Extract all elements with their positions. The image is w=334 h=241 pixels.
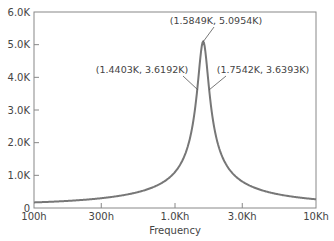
y-tick-label: 2.0K — [8, 137, 31, 148]
y-tick-label: 1.0K — [8, 170, 31, 181]
y-tick-label: 3.0K — [8, 105, 31, 116]
y-tick-label: 6.0K — [8, 7, 31, 18]
annotation-label: (1.5849K, 5.0954K) — [170, 15, 262, 26]
x-tick-label: 10Kh — [303, 211, 329, 222]
x-tick-label: 300h — [89, 211, 114, 222]
y-tick-label: 5.0K — [8, 39, 31, 50]
x-axis-label: Frequency — [149, 225, 201, 236]
x-tick-label: 1.0Kh — [161, 211, 190, 222]
annotation-arrow — [183, 76, 198, 90]
annotations: (1.5849K, 5.0954K)(1.4403K, 3.6192K)(1.7… — [96, 15, 309, 90]
x-tick-label: 3.0Kh — [228, 211, 257, 222]
frequency-response-chart: 01.0K2.0K3.0K4.0K5.0K6.0K 100h300h1.0Kh3… — [0, 0, 334, 241]
annotation-arrow — [203, 27, 214, 42]
y-tick-label: 4.0K — [8, 72, 31, 83]
annotation-arrow — [209, 76, 226, 90]
x-tick-label: 100h — [21, 211, 46, 222]
annotation-label: (1.4403K, 3.6192K) — [96, 64, 188, 75]
x-axis: 100h300h1.0Kh3.0Kh10Kh — [21, 203, 329, 222]
plot-frame — [34, 12, 316, 208]
annotation-label: (1.7542K, 3.6393K) — [217, 64, 309, 75]
